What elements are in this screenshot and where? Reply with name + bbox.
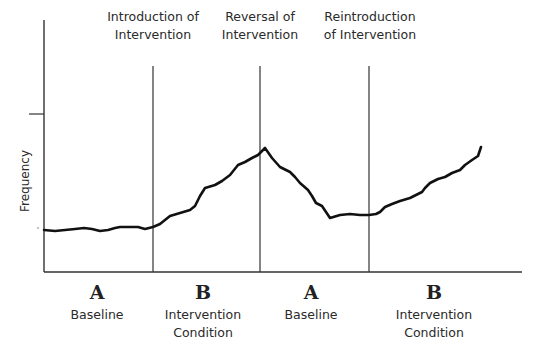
phase-4-name: Intervention Condition xyxy=(389,306,479,342)
frequency-line xyxy=(44,147,481,231)
phase-4-letter: B xyxy=(412,281,456,303)
annotation-introduction-line1: Introduction of xyxy=(95,8,211,26)
phase-2-name-line1: Intervention xyxy=(158,306,248,324)
phase-2-letter: B xyxy=(181,281,225,303)
annotation-introduction-line2: Intervention xyxy=(95,26,211,44)
phase-3-letter: A xyxy=(289,281,333,303)
phase-4-name-line1: Intervention xyxy=(389,306,479,324)
annotation-reintroduction-line2: of Intervention xyxy=(318,26,422,44)
phase-1-name: Baseline xyxy=(57,306,137,324)
annotation-reversal-line1: Reversal of xyxy=(213,8,307,26)
phase-3-name: Baseline xyxy=(271,306,351,324)
annotation-reintroduction-line1: Reintroduction xyxy=(318,8,422,26)
y-axis-dot xyxy=(37,227,39,229)
annotation-reversal-line2: Intervention xyxy=(213,26,307,44)
phase-2-name: Intervention Condition xyxy=(158,306,248,342)
phase-1-letter: A xyxy=(75,281,119,303)
y-axis-label: Frequency xyxy=(18,152,32,212)
annotation-reintroduction: Reintroduction of Intervention xyxy=(318,8,422,44)
annotation-reversal: Reversal of Intervention xyxy=(213,8,307,44)
annotation-introduction: Introduction of Intervention xyxy=(95,8,211,44)
phase-4-name-line2: Condition xyxy=(389,324,479,342)
phase-2-name-line2: Condition xyxy=(158,324,248,342)
